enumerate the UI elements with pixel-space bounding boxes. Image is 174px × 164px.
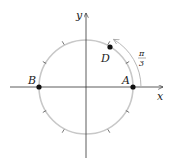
- unit-circle-diagram: y x A B D π 3: [0, 0, 174, 164]
- point-b-label: B: [27, 74, 36, 87]
- point-d-label: D: [100, 52, 110, 65]
- point-b: [36, 84, 41, 89]
- arc-label-numerator: π: [138, 49, 145, 58]
- x-axis-label: x: [157, 90, 164, 103]
- point-a: [130, 84, 135, 89]
- arc-label-denominator: 3: [139, 59, 144, 68]
- y-axis-label: y: [75, 9, 83, 22]
- diagram-canvas: y x A B D π 3: [0, 0, 174, 164]
- point-d: [107, 44, 112, 49]
- point-a-label: A: [121, 74, 130, 87]
